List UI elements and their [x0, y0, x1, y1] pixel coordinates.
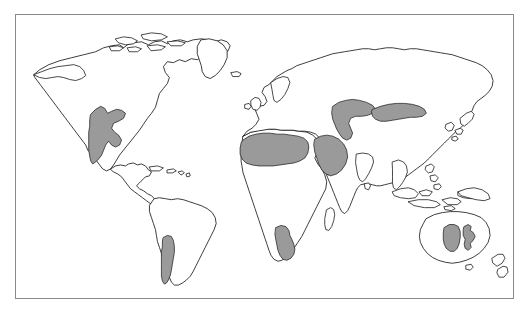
landmass-south-america [149, 198, 216, 285]
landmass-british-isles [245, 97, 261, 110]
landmass-philippines [425, 164, 441, 190]
landmass-greenland [197, 39, 227, 79]
world-map-svg [16, 15, 513, 298]
landmass-caribbean [149, 166, 190, 177]
landmass-new-zealand [492, 254, 508, 277]
world-map-frame [15, 14, 514, 299]
landmass-indochina [392, 160, 407, 190]
landmass-new-guinea [458, 188, 490, 201]
landmass-iceland [231, 72, 241, 77]
region-australian-western-desert [443, 225, 460, 252]
landmass-madagascar [325, 208, 335, 231]
landmass-sri-lanka [365, 183, 371, 190]
region-sahara-desert [240, 133, 309, 166]
figure-page [0, 0, 529, 312]
landmass-tasmania [466, 264, 473, 270]
